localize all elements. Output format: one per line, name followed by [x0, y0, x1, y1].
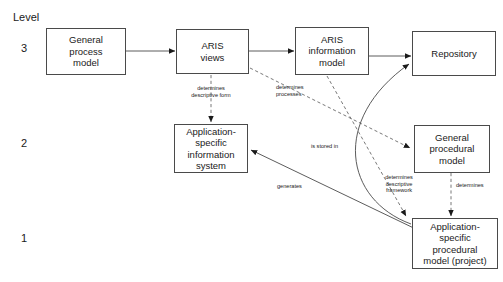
node-application-specific-information-system-label: Application- specific information system — [184, 126, 238, 172]
node-aris-information-model[interactable]: ARIS information model — [295, 27, 369, 75]
node-application-specific-information-system[interactable]: Application- specific information system — [174, 124, 248, 173]
connector-aris-views-to-general-procedural-model — [250, 68, 410, 148]
node-general-process-model-label: General process model — [67, 34, 105, 69]
axis-title: Level — [13, 11, 39, 23]
node-repository[interactable]: Repository — [412, 31, 496, 76]
node-aris-information-model-label: ARIS information model — [307, 34, 358, 69]
edge-label-generates: generates — [277, 183, 317, 190]
edge-label-determines-descriptive-framework: determines descriptive framework — [371, 174, 427, 194]
edge-label-is-stored-in: is stored in — [311, 143, 361, 150]
node-application-specific-procedural-model[interactable]: Application- specific procedural model (… — [412, 218, 498, 269]
axis-level-2: 2 — [21, 137, 27, 149]
axis-level-1: 1 — [21, 232, 27, 244]
node-general-procedural-model-label: General procedural model — [428, 132, 477, 167]
node-general-process-model[interactable]: General process model — [46, 28, 126, 75]
node-aris-views-label: ARIS views — [199, 40, 227, 63]
node-aris-views[interactable]: ARIS views — [176, 29, 249, 74]
node-general-procedural-model[interactable]: General procedural model — [414, 125, 490, 173]
node-application-specific-procedural-model-label: Application- specific procedural model (… — [421, 221, 488, 267]
edge-label-determines-processes: determines processes — [276, 84, 336, 97]
axis-level-3: 3 — [21, 42, 27, 54]
diagram-canvas: Level 3 2 1 General process model ARIS v… — [0, 0, 503, 282]
edge-label-determines-descriptive-form: determines descriptive form — [170, 85, 252, 98]
edge-label-determines: determines — [456, 182, 498, 189]
node-repository-label: Repository — [429, 48, 478, 60]
